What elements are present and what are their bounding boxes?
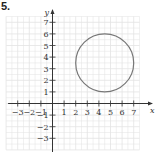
x-tick-label: 4 xyxy=(96,108,101,117)
y-tick-label: 6 xyxy=(43,30,48,39)
x-tick-label: −2 xyxy=(23,108,35,117)
y-axis-arrow-icon xyxy=(51,9,55,14)
x-tick-label: 2 xyxy=(73,108,78,117)
y-tick-label: 2 xyxy=(43,76,48,85)
y-tick-label: −1 xyxy=(37,111,49,120)
x-tick-label: 1 xyxy=(62,108,67,117)
y-tick-label: −2 xyxy=(37,123,49,132)
x-tick-label: −3 xyxy=(12,108,24,117)
grid-lines xyxy=(6,17,139,150)
y-tick-label: 7 xyxy=(43,18,48,27)
coordinate-plane: xy−3−2−11234567−3−2−11234567 xyxy=(0,0,155,160)
x-tick-label: 5 xyxy=(108,108,113,117)
y-tick-label: 4 xyxy=(43,53,48,62)
x-axis-label: x xyxy=(150,106,155,115)
x-tick-label: 6 xyxy=(120,108,125,117)
y-tick-label: −3 xyxy=(37,134,49,143)
y-tick-label: 1 xyxy=(43,88,48,97)
x-tick-label: 3 xyxy=(85,108,90,117)
y-axis-label: y xyxy=(44,8,50,17)
y-tick-label: 3 xyxy=(43,65,48,74)
y-tick-label: 5 xyxy=(43,42,48,51)
x-tick-label: 7 xyxy=(131,108,136,117)
